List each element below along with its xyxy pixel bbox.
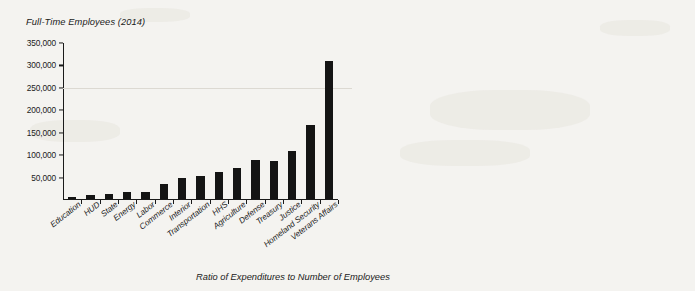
faint-gridline — [63, 88, 352, 89]
x-axis-tick-mark — [320, 200, 321, 204]
bar — [251, 160, 260, 199]
y-axis-tick-mark — [59, 110, 63, 111]
y-axis-tick-mark — [59, 87, 63, 88]
bar — [196, 176, 205, 199]
x-axis-tick-mark — [228, 200, 229, 204]
y-axis-line — [63, 43, 64, 200]
y-axis-tick-label: 250,000 — [27, 83, 63, 93]
y-axis-tick-mark — [59, 132, 63, 133]
bar — [123, 192, 132, 199]
chart-panel-expenditures: Expenditures (2014 fiscal year, in milli… — [345, 0, 695, 260]
chart-panel-employees: Full-Time Employees (2014) 50,000100,000… — [0, 0, 350, 260]
x-axis-tick-mark — [100, 200, 101, 204]
y-axis-tick-label: 350,000 — [27, 38, 63, 48]
figure-page: Full-Time Employees (2014) 50,000100,000… — [0, 0, 695, 291]
bar — [141, 192, 150, 199]
bar — [215, 172, 224, 199]
bar — [105, 194, 114, 199]
bar — [233, 168, 242, 199]
chart-title-employees: Full-Time Employees (2014) — [26, 17, 145, 27]
x-axis-tick-mark — [246, 200, 247, 204]
x-axis-tick-mark — [265, 200, 266, 204]
x-axis-tick-mark — [338, 200, 339, 204]
bar — [160, 184, 169, 199]
y-axis-tick-mark — [59, 155, 63, 156]
x-axis-tick-mark — [155, 200, 156, 204]
x-axis-tick-mark — [210, 200, 211, 204]
bar — [86, 195, 95, 199]
bar — [325, 61, 334, 199]
bar — [270, 161, 279, 199]
bar — [178, 178, 187, 199]
y-axis-tick-mark — [59, 65, 63, 66]
y-axis-tick-mark — [59, 42, 63, 43]
y-axis-tick-mark — [59, 177, 63, 178]
bar — [68, 197, 77, 199]
x-axis-tick-mark — [136, 200, 137, 204]
figure-caption: Ratio of Expenditures to Number of Emplo… — [196, 272, 390, 282]
y-axis-tick-label: 300,000 — [27, 60, 63, 70]
plot-area-employees: 50,000100,000150,000200,000250,000300,00… — [63, 43, 338, 200]
x-axis-tick-label: Education — [49, 200, 83, 229]
x-axis-tick-mark — [118, 200, 119, 204]
y-axis-tick-label: 200,000 — [27, 105, 63, 115]
y-axis-tick-label: 150,000 — [27, 128, 63, 138]
x-axis-tick-mark — [191, 200, 192, 204]
x-axis-tick-mark — [173, 200, 174, 204]
x-axis-tick-label: HUD — [82, 200, 101, 218]
x-axis-tick-mark — [81, 200, 82, 204]
x-axis-tick-mark — [283, 200, 284, 204]
y-axis-tick-label: 100,000 — [27, 150, 63, 160]
bar — [306, 125, 315, 199]
x-axis-tick-mark — [301, 200, 302, 204]
bar — [288, 151, 297, 199]
